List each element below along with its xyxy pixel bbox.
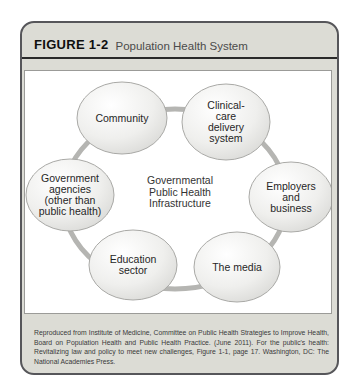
node-label-media: The media — [212, 262, 262, 273]
node-label-employers: Employers and business — [266, 181, 316, 214]
figure-header: FIGURE 1-2 Population Health System — [22, 23, 337, 59]
node-label-government-agencies: Government agencies (other than public h… — [39, 173, 101, 217]
figure-card: FIGURE 1-2 Population Health System Comm… — [20, 21, 339, 375]
figure-label: FIGURE 1-2 — [34, 37, 109, 52]
diagram-area: Community Clinical- care delivery system… — [24, 70, 332, 314]
node-label-community: Community — [95, 113, 148, 124]
figure-caption: Reproduced from Institute of Medicine, C… — [34, 328, 329, 367]
center-label: Governmental Public Health Infrastructur… — [147, 175, 213, 210]
figure-title: Population Health System — [116, 40, 248, 52]
node-label-clinical-care: Clinical- care delivery system — [207, 100, 244, 144]
node-label-education: Education sector — [110, 254, 157, 276]
